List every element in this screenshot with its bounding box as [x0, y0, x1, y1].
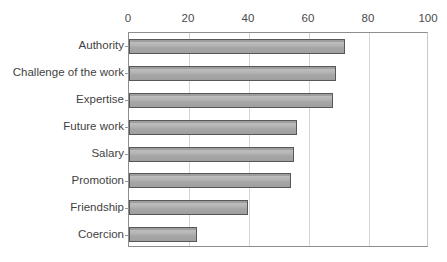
category-label: Friendship [70, 200, 124, 214]
bar [129, 120, 297, 135]
y-tick-mark [125, 181, 129, 182]
y-axis-category-labels: AuthorityChallenge of the workExpertiseF… [0, 32, 124, 247]
bar-chart: 020406080100 AuthorityChallenge of the w… [0, 0, 447, 262]
plot-area [128, 32, 428, 247]
bar-row [129, 114, 429, 141]
bar [129, 200, 248, 215]
x-tick-label: 80 [362, 11, 375, 25]
bar-row [129, 194, 429, 221]
bar-row [129, 221, 429, 248]
y-tick-mark [125, 208, 129, 209]
y-tick-mark [125, 73, 129, 74]
bar-row [129, 167, 429, 194]
bars-layer [129, 33, 427, 246]
category-label: Expertise [76, 92, 124, 106]
bar-row [129, 60, 429, 87]
y-tick-mark [125, 235, 129, 236]
bar [129, 227, 197, 242]
x-tick-label: 100 [418, 11, 437, 25]
bar [129, 173, 291, 188]
category-label: Promotion [72, 173, 124, 187]
bar [129, 66, 336, 81]
bar [129, 147, 294, 162]
y-tick-mark [125, 127, 129, 128]
category-label: Authority [79, 38, 124, 52]
x-tick-label: 60 [302, 11, 315, 25]
bar [129, 93, 333, 108]
x-tick-label: 20 [182, 11, 195, 25]
y-tick-mark [125, 154, 129, 155]
category-label: Coercion [78, 227, 124, 241]
category-label: Salary [91, 146, 124, 160]
bar-row [129, 141, 429, 168]
category-label: Challenge of the work [13, 65, 124, 79]
x-tick-label: 40 [242, 11, 255, 25]
y-tick-mark [125, 46, 129, 47]
y-tick-mark [125, 100, 129, 101]
x-tick-label: 0 [125, 11, 131, 25]
bar-row [129, 87, 429, 114]
category-label: Future work [63, 119, 124, 133]
x-axis-tick-labels: 020406080100 [0, 11, 447, 27]
bar [129, 39, 345, 54]
bar-row [129, 33, 429, 60]
